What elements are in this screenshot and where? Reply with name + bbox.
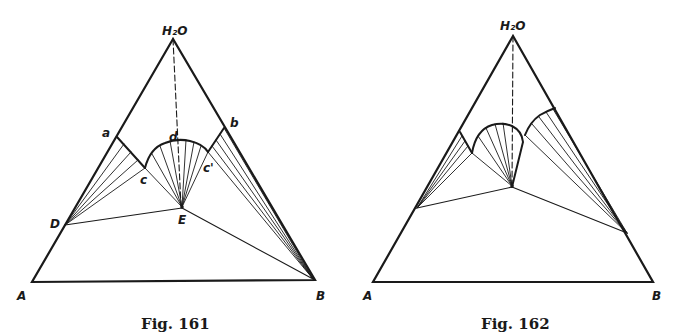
label-b-point: b	[230, 116, 239, 130]
figure-161	[32, 39, 315, 282]
label-apex: H₂O	[500, 19, 526, 33]
dashed-line-apex-to-e	[512, 36, 513, 186]
point-e	[510, 184, 514, 188]
point-e	[180, 205, 184, 209]
caption-fig-162: Fig. 162	[481, 315, 550, 333]
label-apex: H₂O	[162, 24, 188, 38]
caption-fig-161: Fig. 161	[141, 315, 210, 333]
label-a-point: a	[102, 126, 110, 140]
line-d-e	[65, 208, 182, 225]
tie-lines-e	[472, 123, 512, 186]
tie-lines-right	[525, 109, 627, 233]
curve-left	[460, 132, 472, 153]
label-b-vertex: B	[652, 289, 661, 303]
label-d: D	[50, 217, 60, 231]
tie-lines-b	[208, 128, 313, 279]
label-d-point: d	[169, 130, 178, 144]
figure-161-labels: H₂O A B D E a b c c' d Fig. 161	[16, 24, 325, 333]
label-a-vertex: A	[362, 289, 372, 303]
curve-right	[525, 108, 555, 135]
ternary-diagrams: H₂O A B D E a b c c' d Fig. 161	[0, 0, 679, 336]
figure-162	[373, 36, 653, 282]
label-c-prime: c'	[203, 161, 214, 175]
label-a-vertex: A	[16, 289, 26, 303]
label-e: E	[178, 213, 187, 227]
label-b-vertex: B	[316, 289, 325, 303]
label-c: c	[140, 173, 147, 187]
